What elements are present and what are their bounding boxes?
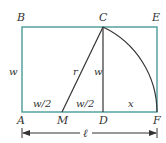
label-point-A: A bbox=[16, 114, 25, 127]
label-length-l: ℓ bbox=[83, 127, 88, 140]
label-point-M: M bbox=[56, 114, 69, 127]
label-point-C: C bbox=[99, 11, 108, 24]
label-CD: w bbox=[94, 66, 103, 77]
golden-rectangle-diagram: B C E A M D F w w/2 w/2 w r x ℓ bbox=[0, 0, 166, 143]
label-point-D: D bbox=[98, 114, 108, 127]
label-MD: w/2 bbox=[76, 98, 94, 109]
label-radius-r: r bbox=[73, 66, 79, 77]
label-AM: w/2 bbox=[33, 98, 51, 109]
label-point-F: F bbox=[152, 114, 161, 127]
label-point-B: B bbox=[16, 11, 25, 24]
label-side-w: w bbox=[9, 66, 18, 77]
label-x: x bbox=[128, 98, 134, 109]
label-point-E: E bbox=[151, 11, 160, 24]
